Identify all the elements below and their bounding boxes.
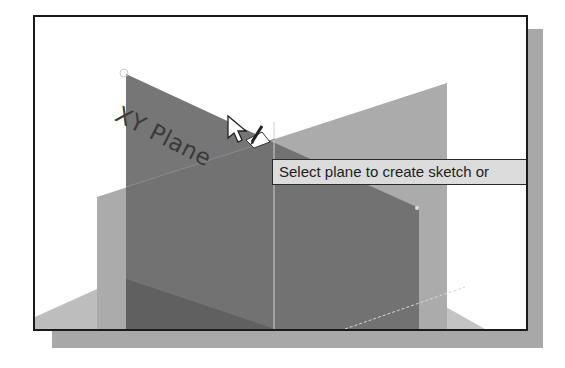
cursor-group (226, 114, 276, 158)
corner-handle-right[interactable] (415, 206, 419, 210)
arrow-cursor-icon (228, 116, 246, 142)
graphics-viewport[interactable]: XY Plane Select plane to create sketch o… (33, 15, 528, 331)
pencil-sketch-icon (246, 126, 270, 148)
corner-handle-top-left[interactable] (120, 69, 128, 77)
tooltip: Select plane to create sketch or (272, 159, 528, 185)
